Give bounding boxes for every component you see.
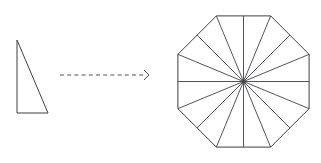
octagon-spoke-to-edge-midpoint-9 bbox=[197, 82, 243, 128]
left-triangle-group bbox=[17, 40, 48, 113]
octagon-group bbox=[178, 16, 309, 147]
arrow-head-icon bbox=[144, 70, 149, 80]
right-triangle bbox=[17, 40, 48, 113]
transformation-arrow-group bbox=[60, 70, 149, 80]
octagon-spokes bbox=[178, 16, 309, 147]
figure-canvas bbox=[0, 0, 321, 163]
octagon-spoke-to-edge-midpoint-5 bbox=[244, 82, 290, 128]
octagon-spoke-to-edge-midpoint-1 bbox=[244, 35, 290, 81]
octagon-spoke-to-edge-midpoint-13 bbox=[197, 35, 243, 81]
figure-root bbox=[0, 0, 321, 163]
